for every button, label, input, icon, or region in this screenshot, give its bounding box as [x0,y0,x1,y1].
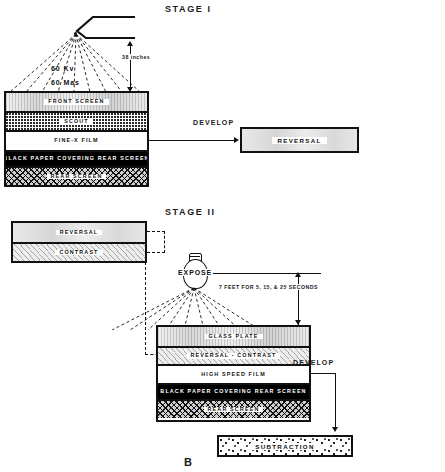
layer-black-paper: BLACK PAPER COVERING REAR SCREEN [6,150,147,166]
stage-2-cassette-stack: GLASS PLATE REVERSAL - CONTRAST HIGH SPE… [156,325,311,422]
bulb-ring-1 [189,256,200,257]
layer-contrast-label: CONTRAST [55,250,102,255]
layer-high-speed-film: HIGH SPEED FILM [158,364,309,383]
layer-reversal: REVERSAL [13,223,145,242]
stage-1-develop-label: DEVELOP [193,119,234,126]
stage-2-title: STAGE II [165,207,216,217]
stage-2-input-stack: REVERSAL CONTRAST [11,221,147,263]
stage-1-develop-arrowhead [234,137,239,143]
figure-label: B [184,456,192,468]
layer-fine-x-film: FINE-X FILM [6,130,147,150]
layer-scout-label: SCOUT [60,119,93,124]
distance-dimension-line [130,42,131,92]
stage-2-develop-label: DEVELOP [293,359,334,366]
stage-2-develop-arrow-v [335,373,336,429]
distance-arrow-up [127,41,133,46]
exposure-note: 7 FEET FOR 5, 15, & 25 SECONDS [217,284,320,290]
layer-black-paper-2: BLACK PAPER COVERING REAR SCREEN [158,383,309,399]
layer-rear-screen: REAR SCREEN [6,166,147,185]
subtraction-box: SUBTRACTION [217,435,353,457]
layer-contrast: CONTRAST [13,242,145,261]
layer-black-paper-label: BLACK PAPER COVERING REAR SCREEN [6,156,147,161]
exposure-arrow-up [295,272,301,277]
stage-1-develop-arrow-line [149,140,235,141]
layer-rear-screen-label: REAR SCREEN [47,174,107,179]
layer-reversal-label: REVERSAL [56,230,103,235]
beam-mas-label: 60 Mas [51,79,80,86]
xray-beam [0,30,175,92]
layer-glass-plate: GLASS PLATE [158,327,309,346]
distance-label: 38 inches [120,54,152,60]
layer-front-screen: FRONT SCREEN [6,93,147,111]
exposure-dimension-top [213,273,321,274]
dashed-connector-top [147,231,165,232]
layer-front-screen-label: FRONT SCREEN [44,99,108,104]
layer-fine-x-film-label: FINE-X FILM [50,138,102,143]
stage-1-cassette-stack: FRONT SCREEN SCOUT FINE-X FILM BLACK PAP… [4,91,149,187]
exposure-dimension-line [298,273,299,325]
layer-glass-plate-label: GLASS PLATE [205,334,263,339]
stage-1-reversal-label: REVERSAL [272,137,326,144]
layer-black-paper-2-label: BLACK PAPER COVERING REAR SCREEN [158,389,309,394]
layer-high-speed-film-label: HIGH SPEED FILM [197,372,270,377]
stage-1-title: STAGE I [165,4,212,14]
stage-2-develop-arrowhead [332,427,338,432]
light-beam [110,286,300,330]
stage-1-reversal-box: REVERSAL [240,127,359,153]
beam-kv-label: 60 Kv [51,65,74,72]
subtraction-label: SUBTRACTION [250,443,319,450]
layer-rear-screen-2: REAR SCREEN [158,399,309,418]
layer-rear-screen-2-label: REAR SCREEN [204,407,264,412]
dashed-connector-bracket [164,231,165,253]
layer-reversal-contrast: REVERSAL - CONTRAST [158,346,309,364]
stage-2-develop-arrow-h [311,373,335,374]
layer-reversal-contrast-label: REVERSAL - CONTRAST [187,353,281,358]
dashed-connector-mid [147,252,165,253]
expose-label: EXPOSE [177,269,213,276]
layer-scout: SCOUT [6,111,147,130]
